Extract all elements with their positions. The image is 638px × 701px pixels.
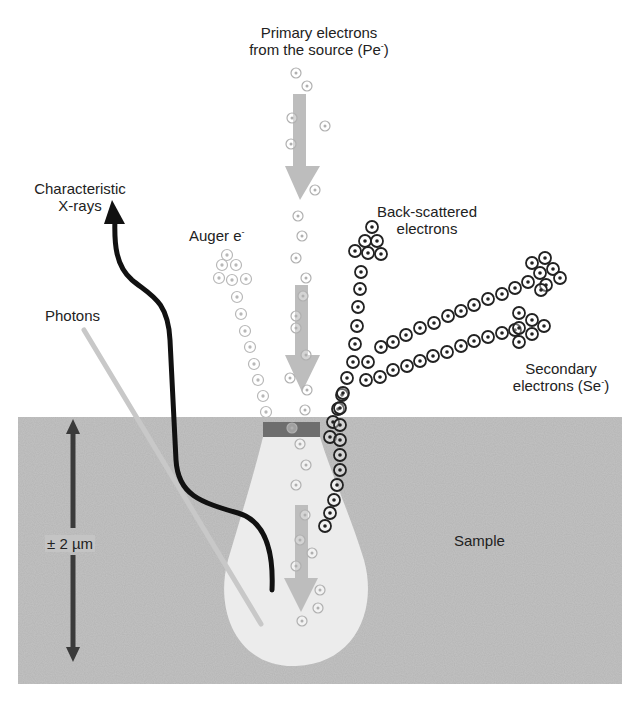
auger-electron-icon — [241, 274, 252, 285]
backscattered-electron-icon — [349, 338, 361, 350]
secondary-electron-icon — [539, 252, 551, 264]
secondary-electron-icon — [401, 360, 413, 372]
primary-electron-icon — [302, 81, 312, 91]
primary-electron-icon — [295, 535, 305, 545]
secondary-electron-icon — [522, 276, 534, 288]
secondary-electron-icon — [427, 350, 439, 362]
secondary-electron-icon — [534, 267, 546, 279]
primary-electron-icon — [293, 211, 303, 221]
auger-electrons — [214, 250, 272, 418]
primary-electron-icon — [300, 405, 310, 415]
backscattered-electron-icon — [334, 402, 346, 414]
primary-electron-icon — [291, 561, 301, 571]
backscattered-electron-icon — [362, 247, 374, 259]
primary-electron-icon — [291, 253, 301, 263]
sample-label: Sample — [454, 532, 505, 549]
primary-electron-icon — [297, 231, 307, 241]
backscattered-label-line2: electrons — [368, 220, 486, 237]
primary-electron-icon — [310, 185, 320, 195]
secondary-electron-icon — [400, 329, 412, 341]
auger-electron-icon — [222, 250, 233, 261]
primary-electron-icon — [301, 273, 311, 283]
secondary-electron-icon — [526, 257, 538, 269]
secondary-electron-icon — [374, 371, 386, 383]
auger-electron-icon — [214, 273, 225, 284]
secondary-electron-icon — [375, 341, 387, 353]
primary-electron-icon — [291, 480, 301, 490]
primary-electrons-label: Primary electrons from the source (Pe-) — [228, 24, 410, 58]
secondary-electron-icon — [362, 356, 374, 368]
auger-electron-icon — [249, 359, 260, 370]
auger-electron-icon — [245, 342, 256, 353]
photons-label: Photons — [45, 307, 100, 324]
secondary-electron-icon — [535, 284, 547, 296]
primary-electron-icon — [302, 385, 312, 395]
primary-electron-icon — [291, 311, 301, 321]
secondary-electron-icon — [554, 272, 566, 284]
backscattered-electron-icon — [354, 283, 366, 295]
auger-electron-icon — [231, 260, 242, 271]
backscattered-electron-icon — [328, 494, 340, 506]
secondary-electron-icon — [482, 293, 494, 305]
secondary-electron-icon — [509, 282, 521, 294]
backscattered-electron-icon — [334, 419, 346, 431]
secondary-label-line1: Secondary — [505, 360, 617, 377]
xrays-label: Characteristic X-rays — [24, 180, 136, 214]
xrays-label-line1: Characteristic — [24, 180, 136, 197]
primary-electron-icon — [291, 323, 301, 333]
backscattered-electron-icon — [334, 449, 346, 461]
auger-electron-icon — [217, 260, 228, 271]
secondary-electron-icon — [496, 288, 508, 300]
backscattered-electron-icon — [319, 520, 331, 532]
primary-electron-icon — [286, 139, 296, 149]
primary-electron-icon — [320, 121, 330, 131]
depth-scale-label: ± 2 µm — [45, 535, 95, 552]
primary-electron-icon — [285, 373, 295, 383]
primary-electron-icon — [300, 510, 310, 520]
secondary-label-line2: electrons (Se-) — [505, 377, 617, 394]
backscattered-electron-icon — [355, 266, 367, 278]
primary-electron-icon — [297, 616, 307, 626]
secondary-electron-icon — [387, 364, 399, 376]
secondary-electron-icon — [513, 307, 525, 319]
backscattered-label: Back-scattered electrons — [368, 203, 486, 237]
secondary-electron-icon — [414, 355, 426, 367]
secondary-electron-icon — [468, 335, 480, 347]
secondary-electron-icon — [513, 322, 525, 334]
backscattered-electron-icon — [347, 356, 359, 368]
auger-electron-icon — [240, 326, 251, 337]
primary-label-line1: Primary electrons — [228, 24, 410, 41]
auger-electron-icon — [236, 309, 247, 320]
secondary-electron-icon — [442, 310, 454, 322]
backscattered-electron-icon — [351, 320, 363, 332]
primary-electron-icon — [287, 423, 297, 433]
primary-label-line2: from the source (Pe-) — [228, 41, 410, 58]
primary-electron-icon — [307, 548, 317, 558]
auger-electron-icon — [258, 391, 269, 402]
secondary-electron-icon — [455, 340, 467, 352]
primary-electron-icon — [301, 460, 311, 470]
backscattered-electron-icon — [341, 372, 353, 384]
primary-electron-icon — [291, 68, 301, 78]
backscattered-electron-icon — [352, 301, 364, 313]
backscattered-electron-icon — [375, 248, 387, 260]
backscattered-label-line1: Back-scattered — [368, 203, 486, 220]
auger-label: Auger e- — [189, 227, 245, 244]
electron-interaction-diagram — [0, 0, 638, 701]
backscattered-electron-icon — [349, 245, 361, 257]
auger-electron-icon — [227, 275, 238, 286]
secondary-electron-icon — [360, 374, 372, 386]
xrays-label-line2: X-rays — [24, 197, 136, 214]
secondary-electron-icon — [496, 327, 508, 339]
primary-electron-icon — [295, 439, 305, 449]
secondary-electron-icon — [526, 328, 538, 340]
auger-electron-icon — [232, 292, 243, 303]
secondary-electron-icon — [482, 331, 494, 343]
secondary-electron-icon — [455, 305, 467, 317]
backscattered-electron-icon — [337, 387, 349, 399]
primary-electron-icon — [298, 291, 308, 301]
backscattered-electron-icon — [334, 434, 346, 446]
auger-electron-icon — [261, 407, 272, 418]
secondary-electron-icon — [468, 299, 480, 311]
auger-electron-icon — [253, 375, 264, 386]
